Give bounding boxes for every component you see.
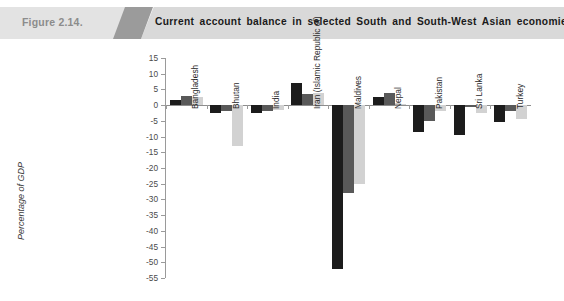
- bar-2008[interactable]: [413, 105, 424, 132]
- category-label: Iran (Islamic Republic of): [312, 17, 322, 110]
- y-tick-label: -40: [146, 226, 158, 236]
- y-tick-label: -50: [146, 257, 158, 267]
- bar-2008[interactable]: [210, 105, 221, 113]
- x-tick-mark: [490, 105, 491, 109]
- y-axis-label: Percentage of GDP: [16, 136, 26, 266]
- y-tick-mark: [161, 199, 165, 200]
- y-tick-mark: [161, 231, 165, 232]
- bar-2008[interactable]: [291, 83, 302, 105]
- x-tick-mark: [288, 105, 289, 109]
- y-tick-mark: [161, 278, 165, 279]
- plot-area: BangladeshBhutanIndiaIran (Islamic Repub…: [166, 58, 531, 278]
- category-label: Bhutan: [231, 83, 241, 110]
- y-tick-mark: [161, 121, 165, 122]
- y-tick-label: -5: [151, 116, 158, 126]
- y-tick-mark: [161, 184, 165, 185]
- bar-2010[interactable]: [232, 105, 243, 146]
- x-tick-mark: [450, 105, 451, 109]
- figure-number: Figure 2.14.: [22, 16, 83, 28]
- y-tick-label: -15: [146, 147, 158, 157]
- category-label: Maldives: [353, 76, 363, 109]
- y-tick-mark: [161, 74, 165, 75]
- x-tick-mark: [328, 105, 329, 109]
- y-tick-label: -45: [146, 242, 158, 252]
- category-label: Turkey: [515, 84, 525, 109]
- x-tick-mark: [409, 105, 410, 109]
- x-tick-mark: [166, 105, 167, 109]
- category-label: Nepal: [393, 87, 403, 109]
- y-tick-mark: [161, 105, 165, 106]
- y-tick-mark: [161, 168, 165, 169]
- category-label: Pakistan: [434, 77, 444, 109]
- x-tick-mark: [247, 105, 248, 109]
- bar-2008[interactable]: [332, 105, 343, 268]
- bar-2010[interactable]: [354, 105, 365, 184]
- figure-title: Current account balance in selected Sout…: [155, 16, 555, 27]
- y-tick-label: -35: [146, 210, 158, 220]
- bar-2008[interactable]: [373, 97, 384, 105]
- y-tick-label: -30: [146, 194, 158, 204]
- y-tick-label: -55: [146, 273, 158, 283]
- x-tick-mark: [207, 105, 208, 109]
- x-tick-mark: [369, 105, 370, 109]
- y-tick-mark: [161, 152, 165, 153]
- bar-2008[interactable]: [251, 105, 262, 113]
- y-tick-label: 15: [149, 53, 158, 63]
- bar-chart: Percentage of GDP 151050-5-10-15-20-25-3…: [0, 46, 564, 301]
- y-tick-mark: [161, 137, 165, 138]
- category-label: Bangladesh: [190, 65, 200, 109]
- y-tick-label: -25: [146, 179, 158, 189]
- y-tick-mark: [161, 247, 165, 248]
- y-tick-label: -20: [146, 163, 158, 173]
- bar-2009[interactable]: [343, 105, 354, 193]
- y-tick-label: 10: [149, 69, 158, 79]
- y-tick-mark: [161, 215, 165, 216]
- y-tick-mark: [161, 58, 165, 59]
- y-tick-mark: [161, 89, 165, 90]
- category-label: Sri Lanka: [474, 74, 484, 109]
- y-tick-mark: [161, 262, 165, 263]
- y-axis-tick-labels: 151050-5-10-15-20-25-30-35-40-45-50-55: [130, 46, 158, 278]
- y-tick-label: 5: [153, 84, 158, 94]
- bar-2008[interactable]: [454, 105, 465, 135]
- bar-2008[interactable]: [494, 105, 505, 122]
- bar-2008[interactable]: [170, 100, 181, 105]
- y-tick-label: -10: [146, 132, 158, 142]
- y-tick-label: 0: [153, 100, 158, 110]
- figure-header-banner: Figure 2.14. Current account balance in …: [0, 7, 564, 39]
- category-label: India: [271, 91, 281, 109]
